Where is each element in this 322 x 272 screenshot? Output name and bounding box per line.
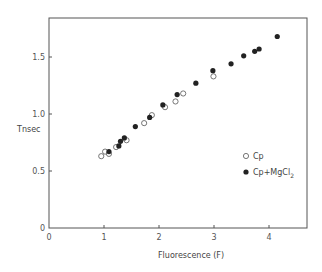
y-tick-label: 1.0 — [32, 110, 45, 119]
filled-circle-point — [228, 61, 233, 66]
filled-circle-point — [116, 143, 121, 148]
y-axis-title: Tnsec — [16, 125, 40, 134]
plot-frame — [49, 18, 307, 228]
open-circle-point — [211, 74, 216, 79]
filled-circle-point — [106, 149, 111, 154]
filled-circle-point — [122, 135, 127, 140]
filled-circle-point — [257, 46, 262, 51]
filled-circle-point — [133, 124, 138, 129]
data-points — [99, 34, 280, 159]
open-circle-point — [181, 91, 186, 96]
open-circle-point — [142, 121, 147, 126]
filled-circle-point — [147, 115, 152, 120]
x-tick-label: 2 — [156, 233, 161, 242]
filled-circle-point — [275, 34, 280, 39]
open-circle-point — [173, 99, 178, 104]
legend-cpmg-label: Cp+MgCl2 — [253, 168, 294, 179]
x-tick-label: 3 — [211, 233, 216, 242]
filled-circle-point — [241, 53, 246, 58]
filled-circle-legend-icon — [243, 169, 248, 174]
x-tick-label: 1 — [101, 233, 106, 242]
open-circle-legend-icon — [243, 153, 248, 158]
scatter-chart: 00.51.01.5 01234 Tnsec Fluorescence (F) … — [0, 0, 322, 272]
open-circle-point — [99, 154, 104, 159]
y-tick-label: 1.5 — [32, 53, 45, 62]
x-tick-label: 4 — [266, 233, 271, 242]
y-tick-label: 0.5 — [32, 167, 45, 176]
filled-circle-point — [210, 68, 215, 73]
x-tick-label: 0 — [46, 233, 51, 242]
filled-circle-point — [175, 92, 180, 97]
filled-circle-point — [193, 81, 198, 86]
legend: Cp Cp+MgCl2 — [243, 152, 294, 179]
legend-cp-label: Cp — [253, 152, 264, 161]
filled-circle-point — [160, 102, 165, 107]
y-tick-label: 0 — [40, 224, 45, 233]
x-axis-title: Fluorescence (F) — [158, 251, 224, 260]
filled-circle-point — [252, 49, 257, 54]
